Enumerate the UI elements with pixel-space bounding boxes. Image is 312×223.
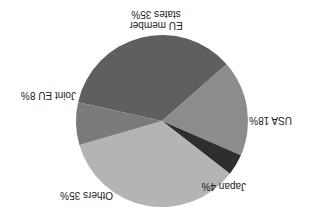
- label-joint-eu: Joint EU 8%: [21, 90, 76, 101]
- label-eu-line1: EU member: [106, 20, 206, 31]
- label-others: Others 35%: [60, 190, 113, 201]
- label-usa: USA 18%: [249, 115, 292, 126]
- pie-svg: [0, 0, 312, 223]
- label-japan: Japan 4%: [202, 181, 246, 192]
- label-eu-member-states: EU member states 35%: [106, 9, 206, 31]
- label-eu-line2: states 35%: [106, 9, 206, 20]
- pie-chart: EU member states 35% USA 18% Japan 4% Ot…: [0, 0, 312, 223]
